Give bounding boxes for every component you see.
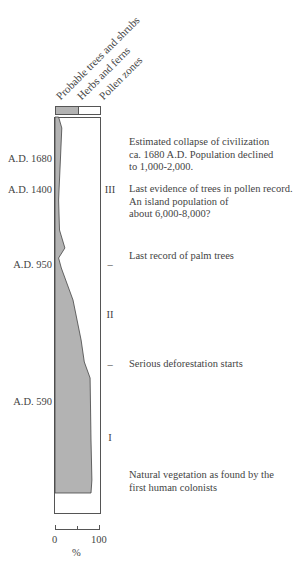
note-palm-trees: Last record of palm trees [129,250,307,263]
chart-column [55,117,101,514]
date-label-1400: A.D. 1400 [4,184,52,195]
zone-divider-1: – [104,259,116,270]
axis-min-label: 0 [52,534,57,545]
axis-max-label: 100 [91,534,107,545]
note-last-trees: Last evidence of trees in pollen record.… [129,183,307,221]
note-natural-vegetation: Natural vegetation as found by the first… [129,469,307,494]
zone-divider-2: – [104,359,116,370]
zone-label-i: I [104,432,116,443]
date-label-1680: A.D. 1680 [4,153,52,164]
note-collapse: Estimated collapse of civilization ca. 1… [129,136,307,174]
zone-label-ii: II [104,309,116,320]
date-label-590: A.D. 590 [4,396,52,407]
note-deforestation: Serious deforestation starts [129,358,307,371]
date-label-950: A.D. 950 [4,259,52,270]
legend-key [56,107,101,115]
axis-unit-label: % [72,547,81,558]
zone-label-iii: III [104,184,116,195]
x-axis [55,525,100,530]
